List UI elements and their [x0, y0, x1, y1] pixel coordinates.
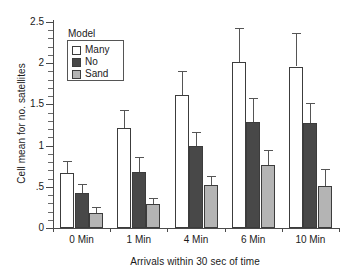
- y-tick-major: [46, 63, 53, 64]
- x-axis-line: [53, 228, 340, 229]
- error-bar-many: [124, 110, 125, 128]
- y-tick-label: .5: [4, 182, 44, 192]
- x-tick: [53, 228, 54, 232]
- legend-item-no[interactable]: No: [72, 56, 98, 68]
- error-bar-no: [253, 98, 254, 122]
- error-cap-no: [306, 103, 315, 104]
- x-tick: [167, 228, 168, 232]
- error-cap-many: [63, 161, 72, 162]
- legend-item-many[interactable]: Many: [72, 44, 109, 56]
- legend-swatch-no-icon: [72, 58, 81, 67]
- y-tick-label: 2.5: [4, 17, 44, 27]
- bar-many-6-min: [232, 62, 246, 228]
- x-axis-title: Arrivals within 30 sec of time: [50, 256, 340, 267]
- bar-no-1-min: [132, 172, 146, 228]
- bar-many-4-min: [175, 95, 189, 228]
- x-tick-label: 10 Min: [282, 234, 339, 245]
- legend-swatch-sand-icon: [72, 70, 81, 79]
- bar-many-1-min: [117, 128, 131, 228]
- legend-swatch-many-icon: [72, 46, 81, 55]
- y-tick-major: [46, 104, 53, 105]
- legend-item-label: No: [85, 57, 98, 67]
- error-bar-many: [239, 28, 240, 62]
- error-cap-sand: [264, 150, 273, 151]
- error-cap-many: [178, 71, 187, 72]
- bar-sand-0-min: [89, 213, 103, 228]
- error-bar-sand: [325, 169, 326, 186]
- y-tick-major: [46, 187, 53, 188]
- error-bar-sand: [268, 150, 269, 166]
- error-cap-sand: [149, 198, 158, 199]
- bar-no-6-min: [246, 122, 260, 228]
- error-bar-no: [196, 132, 197, 146]
- error-cap-no: [192, 132, 201, 133]
- bar-no-0-min: [75, 193, 89, 228]
- error-bar-no: [82, 184, 83, 193]
- x-tick: [339, 228, 340, 232]
- legend-item-sand[interactable]: Sand: [72, 68, 108, 80]
- bar-many-10-min: [289, 67, 303, 229]
- bar-no-10-min: [303, 123, 317, 228]
- error-bar-no: [310, 103, 311, 124]
- y-tick-label: 0: [4, 223, 44, 233]
- y-tick-major: [46, 146, 53, 147]
- error-bar-many: [67, 161, 68, 173]
- y-tick-label: 1.5: [4, 99, 44, 109]
- error-cap-sand: [321, 169, 330, 170]
- bar-sand-10-min: [318, 186, 332, 228]
- bar-chart: Cell mean for no. satellites Arrivals wi…: [0, 0, 349, 278]
- x-tick: [225, 228, 226, 232]
- y-tick-label: 1: [4, 141, 44, 151]
- bar-sand-4-min: [204, 185, 218, 228]
- error-bar-many: [182, 71, 183, 95]
- error-cap-many: [292, 33, 301, 34]
- x-tick: [110, 228, 111, 232]
- x-tick-label: 6 Min: [225, 234, 282, 245]
- legend: ManyNoSand: [67, 40, 124, 81]
- y-tick-major: [46, 22, 53, 23]
- legend-title: Model: [68, 28, 95, 39]
- error-bar-no: [139, 157, 140, 172]
- bar-many-0-min: [60, 173, 74, 228]
- error-cap-many: [235, 28, 244, 29]
- x-tick-label: 1 Min: [110, 234, 167, 245]
- legend-item-label: Many: [85, 45, 109, 55]
- error-cap-sand: [92, 207, 101, 208]
- error-cap-no: [78, 184, 87, 185]
- bar-sand-1-min: [146, 204, 160, 228]
- error-cap-sand: [207, 176, 216, 177]
- legend-item-label: Sand: [85, 69, 108, 79]
- y-tick-label: 2: [4, 58, 44, 68]
- error-cap-many: [120, 110, 129, 111]
- error-bar-sand: [211, 176, 212, 185]
- x-tick-label: 4 Min: [167, 234, 224, 245]
- error-bar-many: [296, 33, 297, 67]
- error-cap-no: [135, 157, 144, 158]
- error-cap-no: [249, 98, 258, 99]
- bar-no-4-min: [189, 146, 203, 228]
- x-tick: [282, 228, 283, 232]
- y-tick-major: [46, 228, 53, 229]
- x-tick-label: 0 Min: [53, 234, 110, 245]
- bar-sand-6-min: [261, 165, 275, 228]
